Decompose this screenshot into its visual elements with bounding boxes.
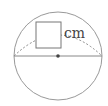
unit-label: cm xyxy=(64,25,85,41)
circle-diagram xyxy=(0,0,108,106)
answer-box[interactable] xyxy=(36,22,61,48)
center-point xyxy=(56,54,60,58)
